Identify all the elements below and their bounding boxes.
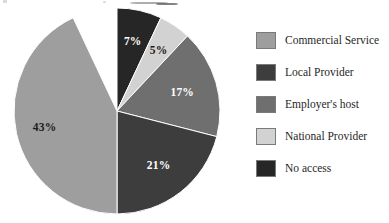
legend-item-label: Local Provider <box>285 67 354 79</box>
legend-swatch-icon <box>256 96 276 113</box>
pie-slice-label: 17% <box>170 86 194 98</box>
pie-slice-label: 5% <box>150 44 168 56</box>
scan-artifact <box>156 3 178 5</box>
pie-slice-label: 7% <box>124 35 142 47</box>
legend-item-national-provider[interactable]: National Provider <box>256 126 389 147</box>
pie-slice[interactable] <box>14 18 117 214</box>
legend-item-no-access[interactable]: No access <box>256 158 389 179</box>
legend-item-commercial-service[interactable]: Commercial Service <box>256 30 389 51</box>
legend-item-label: Commercial Service <box>285 35 379 47</box>
legend-item-local-provider[interactable]: Local Provider <box>256 62 389 83</box>
pie-slice-label: 21% <box>147 159 171 171</box>
pie-chart-svg: 7%5%17%21%43% <box>12 6 222 217</box>
pie-slices-group <box>14 8 220 214</box>
legend-swatch-icon <box>256 160 276 177</box>
legend-item-label: No access <box>285 163 331 175</box>
legend-swatch-icon <box>256 128 276 145</box>
legend-item-employers-host[interactable]: Employer's host <box>256 94 389 115</box>
pie-chart-figure: 7%5%17%21%43% Commercial Service Local P… <box>0 0 389 223</box>
legend-item-label: Employer's host <box>285 99 359 111</box>
legend-swatch-icon <box>256 32 276 49</box>
legend: Commercial Service Local Provider Employ… <box>256 30 389 179</box>
pie-slice-label: 43% <box>33 121 57 133</box>
legend-swatch-icon <box>256 64 276 81</box>
scan-artifact <box>103 1 106 3</box>
scan-artifact <box>3 0 7 3</box>
pie-chart: 7%5%17%21%43% <box>12 6 222 217</box>
legend-item-label: National Provider <box>285 131 367 143</box>
